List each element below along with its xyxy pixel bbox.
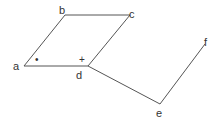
label-a: a [13,60,20,72]
label-b: b [59,4,65,16]
angle-mark-d: + [79,54,85,65]
segment-ef [160,44,205,104]
segment-ab [24,15,65,66]
geometry-diagram: a b c d e f • + [0,0,218,123]
label-d: d [76,69,82,81]
segment-de [88,66,160,104]
angle-mark-a: • [35,54,39,65]
label-f: f [204,36,208,48]
segment-cd [88,15,130,66]
label-c: c [129,8,135,20]
label-e: e [156,107,162,119]
